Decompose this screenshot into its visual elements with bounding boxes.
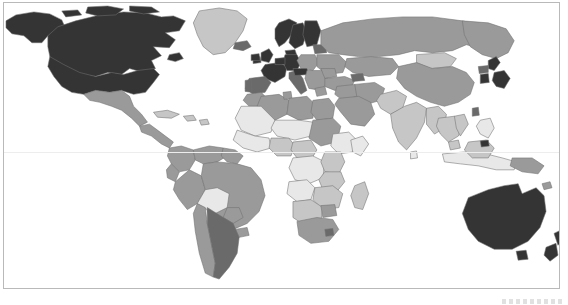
country-portugal[interactable] bbox=[245, 79, 252, 92]
country-south-korea[interactable] bbox=[480, 74, 489, 84]
world-map-svg[interactable] bbox=[4, 3, 559, 288]
country-lesotho[interactable] bbox=[325, 228, 334, 236]
country-libya[interactable] bbox=[287, 96, 315, 120]
country-greece[interactable] bbox=[315, 86, 327, 96]
world-choropleth-figure bbox=[0, 0, 568, 305]
country-caucasus[interactable] bbox=[351, 74, 365, 82]
country-brunei[interactable] bbox=[480, 140, 489, 147]
country-north-korea[interactable] bbox=[478, 66, 488, 74]
country-malaysia[interactable] bbox=[448, 140, 460, 150]
country-taiwan[interactable] bbox=[472, 107, 479, 116]
country-egypt[interactable] bbox=[311, 98, 335, 120]
map-frame bbox=[3, 2, 560, 289]
country-zimbabwe[interactable] bbox=[321, 205, 337, 218]
country-tasmania[interactable] bbox=[516, 250, 528, 260]
watermark-artifact bbox=[502, 299, 564, 304]
country-ireland[interactable] bbox=[251, 54, 260, 61]
equator-graticule-line bbox=[4, 152, 559, 153]
country-benelux[interactable] bbox=[275, 58, 285, 65]
